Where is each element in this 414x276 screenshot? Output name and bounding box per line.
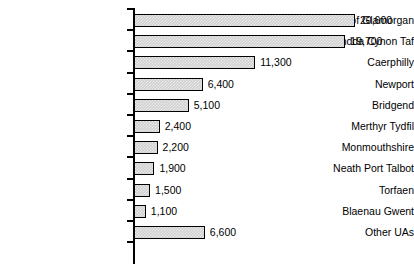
bar-value-label: 20,600 (360, 14, 392, 27)
bar-value-label: 2,400 (165, 120, 191, 133)
axis-tick (127, 72, 134, 74)
bar-row: Newport6,400 (0, 78, 414, 99)
bar-value-label: 5,100 (194, 99, 220, 112)
bar-value-label: 6,400 (208, 78, 234, 91)
category-label: Caerphilly (288, 56, 414, 69)
bar (134, 162, 154, 175)
axis-tick (127, 93, 134, 95)
bar-container (134, 56, 255, 69)
bar (134, 205, 146, 218)
bar-row: Neath Port Talbot1,900 (0, 162, 414, 183)
bar-row: Blaenau Gwent1,100 (0, 205, 414, 226)
bar (134, 99, 189, 112)
bar (134, 56, 255, 69)
category-label: Bridgend (288, 99, 414, 112)
category-label: Monmouthshire (288, 141, 414, 154)
bar-row: Merthyr Tydfil2,400 (0, 120, 414, 141)
category-label: Other UAs (288, 226, 414, 239)
bar-row: Rhondda Cynon Taf19,700 (0, 35, 414, 56)
bar (134, 120, 160, 133)
bar-row: Monmouthshire2,200 (0, 141, 414, 162)
bar (134, 226, 205, 239)
axis-tick (127, 50, 134, 52)
bar-value-label: 19,700 (350, 35, 382, 48)
bar-row: Caerphilly11,300 (0, 56, 414, 77)
axis-tick (127, 220, 134, 222)
bar-row: Bridgend5,100 (0, 99, 414, 120)
bar-value-label: 1,900 (159, 162, 185, 175)
bar (134, 35, 345, 48)
bar-container (134, 162, 154, 175)
bar-value-label: 11,300 (260, 56, 291, 69)
axis-tick (127, 8, 134, 10)
bar-value-label: 2,200 (163, 141, 189, 154)
bar-container (134, 120, 160, 133)
plot-area: Vale of Glamorgan20,600Rhondda Cynon Taf… (0, 0, 414, 276)
axis-tick (127, 156, 134, 158)
category-label: Merthyr Tydfil (288, 120, 414, 133)
bar-container (134, 78, 203, 91)
category-label: Neath Port Talbot (288, 162, 414, 175)
bar-row: Vale of Glamorgan20,600 (0, 14, 414, 35)
bar-chart: Vale of Glamorgan20,600Rhondda Cynon Taf… (0, 0, 414, 276)
bar-container (134, 99, 189, 112)
axis-tick (127, 178, 134, 180)
category-label: Blaenau Gwent (288, 205, 414, 218)
bar (134, 78, 203, 91)
bar (134, 14, 355, 27)
bar-container (134, 35, 345, 48)
bar (134, 184, 150, 197)
bar-container (134, 226, 205, 239)
axis-tick (127, 114, 134, 116)
bar-row: Torfaen1,500 (0, 184, 414, 205)
axis-tick (127, 29, 134, 31)
axis-tick (127, 135, 134, 137)
bar-value-label: 6,600 (210, 226, 236, 239)
category-label: Newport (288, 78, 414, 91)
bar (134, 141, 158, 154)
bar-container (134, 184, 150, 197)
category-label: Torfaen (288, 184, 414, 197)
bar-row: Other UAs6,600 (0, 226, 414, 247)
bar-value-label: 1,100 (151, 205, 177, 218)
bar-container (134, 14, 355, 27)
axis-tick (127, 199, 134, 201)
axis-tick (127, 241, 134, 243)
bar-value-label: 1,500 (155, 184, 181, 197)
bar-container (134, 141, 158, 154)
bar-container (134, 205, 146, 218)
